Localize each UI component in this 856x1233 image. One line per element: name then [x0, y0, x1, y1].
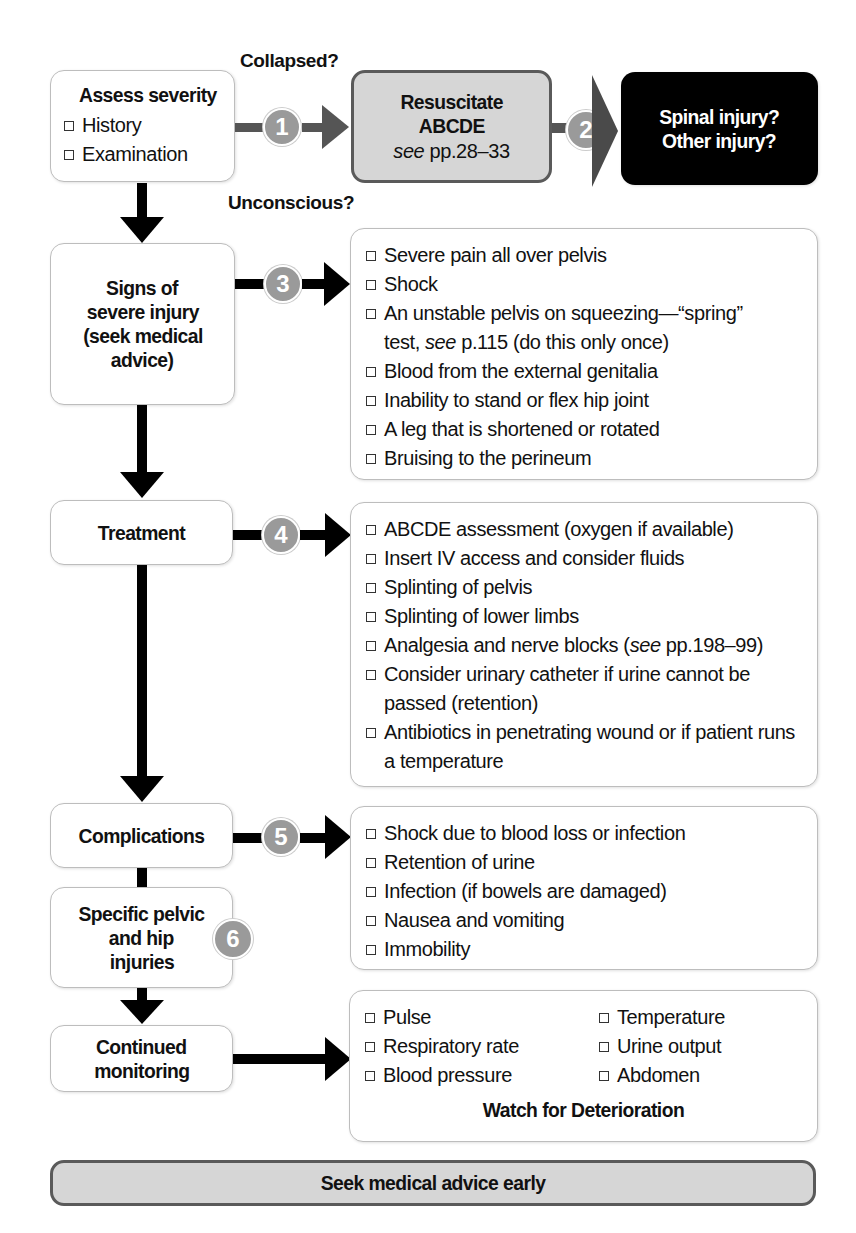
arrow-right-icon: [322, 105, 349, 149]
complications-item: Retention of urine: [363, 848, 805, 877]
arrow-right-icon: [325, 815, 351, 859]
connector-4-right: [300, 530, 326, 540]
checkbox-icon: [366, 454, 376, 464]
checkbox-icon: [366, 945, 376, 955]
resuscitate-box[interactable]: Resuscitate ABCDE see pp.28–33: [351, 70, 552, 183]
seek-medical-advice-label: Seek medical advice early: [321, 1171, 546, 1195]
checkbox-icon: [365, 1013, 375, 1023]
resuscitate-abcde: ABCDE: [419, 114, 485, 138]
resuscitate-title: Resuscitate: [400, 90, 502, 114]
specific-title-line: injuries: [109, 950, 173, 974]
checkbox-icon: [599, 1042, 609, 1052]
monitoring-item: Respiratory rate: [362, 1032, 596, 1061]
continued-monitoring-box[interactable]: Continued monitoring: [50, 1025, 233, 1092]
step-3-badge: 3: [264, 265, 302, 303]
checkbox-icon: [366, 670, 376, 680]
connector-5-right: [300, 833, 326, 843]
signs-item: Bruising to the perineum: [363, 444, 805, 473]
other-injury-label: Other injury?: [662, 129, 776, 153]
monitoring-right-column: Temperature Urine output Abdomen: [596, 1003, 725, 1090]
treatment-item: Splinting of lower limbs: [363, 602, 805, 631]
checkbox-icon: [366, 396, 376, 406]
step-4-badge: 4: [262, 516, 300, 554]
arrow-right-icon: [325, 1037, 351, 1081]
connector-vertical: [137, 868, 147, 888]
connector-1-right: [302, 123, 324, 132]
assess-item-history: History: [61, 111, 141, 140]
checkbox-icon: [365, 1042, 375, 1052]
treatment-list-box: ABCDE assessment (oxygen if available) I…: [350, 502, 818, 787]
signs-severe-injury-box[interactable]: Signs of severe injury (seek medical adv…: [50, 243, 235, 405]
arrow-right-icon: [325, 513, 351, 557]
complications-item: Nausea and vomiting: [363, 906, 805, 935]
monitoring-list-box: Pulse Respiratory rate Blood pressure Te…: [349, 990, 818, 1142]
chevron-right-icon: [592, 75, 618, 187]
signs-item: Inability to stand or flex hip joint: [363, 386, 805, 415]
signs-title-line: severe injury: [86, 300, 198, 324]
connector-vertical: [137, 183, 147, 219]
treatment-item: Splinting of pelvis: [363, 573, 805, 602]
connector-vertical: [137, 565, 147, 777]
checkbox-icon: [366, 554, 376, 564]
checkbox-icon: [366, 251, 376, 261]
seek-medical-advice-bar[interactable]: Seek medical advice early: [50, 1160, 816, 1206]
assess-item-examination: Examination: [61, 140, 188, 169]
arrow-down-icon: [120, 1000, 164, 1024]
step-5-badge: 5: [262, 818, 300, 856]
checkbox-icon: [366, 583, 376, 593]
specific-title-line: and hip: [109, 926, 174, 950]
resuscitate-page-ref[interactable]: see pp.28–33: [393, 138, 509, 164]
assess-severity-box[interactable]: Assess severity History Examination: [50, 70, 235, 182]
monitoring-item: Urine output: [596, 1032, 725, 1061]
treatment-box[interactable]: Treatment: [50, 500, 233, 565]
complications-box[interactable]: Complications: [50, 803, 233, 868]
monitoring-title-line: Continued: [96, 1035, 187, 1059]
checkbox-icon: [64, 121, 74, 131]
checkbox-icon: [599, 1071, 609, 1081]
checkbox-icon: [365, 1071, 375, 1081]
signs-item-spring-test: An unstable pelvis on squeezing—“spring”…: [363, 299, 805, 357]
checkbox-icon: [366, 829, 376, 839]
complications-item: Immobility: [363, 935, 805, 964]
complications-item: Infection (if bowels are damaged): [363, 877, 805, 906]
complications-list-box: Shock due to blood loss or infection Ret…: [350, 806, 818, 970]
monitoring-item: Pulse: [362, 1003, 596, 1032]
arrow-down-icon: [120, 472, 164, 498]
spinal-injury-label: Spinal injury?: [659, 105, 779, 129]
monitoring-item: Temperature: [596, 1003, 725, 1032]
connector-5-left: [233, 833, 263, 843]
checkbox-icon: [366, 858, 376, 868]
connector-3-right: [302, 279, 326, 289]
signs-item: Severe pain all over pelvis: [363, 241, 805, 270]
monitoring-item: Abdomen: [596, 1061, 725, 1090]
unconscious-label: Unconscious?: [228, 192, 354, 214]
checkbox-icon: [366, 525, 376, 535]
checkbox-icon: [366, 309, 376, 319]
treatment-title: Treatment: [98, 521, 185, 545]
connector-vertical: [137, 405, 147, 473]
checkbox-icon: [366, 612, 376, 622]
signs-item: A leg that is shortened or rotated: [363, 415, 805, 444]
spinal-other-injury-box[interactable]: Spinal injury? Other injury?: [621, 72, 818, 185]
connector-monitoring: [233, 1054, 327, 1064]
checkbox-icon: [366, 887, 376, 897]
monitoring-title-line: monitoring: [94, 1059, 189, 1083]
checkbox-icon: [366, 280, 376, 290]
checkbox-icon: [366, 916, 376, 926]
treatment-item-analgesia: Analgesia and nerve blocks (see pp.198–9…: [363, 631, 805, 660]
monitoring-item: Blood pressure: [362, 1061, 596, 1090]
arrow-down-icon: [120, 217, 164, 243]
specific-pelvic-hip-injuries-box[interactable]: Specific pelvic and hip injuries: [50, 887, 233, 988]
checkbox-icon: [599, 1013, 609, 1023]
checkbox-icon: [64, 150, 74, 160]
monitoring-left-column: Pulse Respiratory rate Blood pressure: [362, 1003, 596, 1090]
complications-item: Shock due to blood loss or infection: [363, 819, 805, 848]
treatment-item: Antibiotics in penetrating wound or if p…: [363, 718, 805, 776]
signs-title-line: (seek medical: [83, 324, 203, 348]
checkbox-icon: [366, 728, 376, 738]
signs-title-line: advice): [111, 348, 174, 372]
step-6-badge: 6: [213, 919, 253, 959]
signs-item: Shock: [363, 270, 805, 299]
signs-title-line: Signs of: [107, 276, 179, 300]
signs-item: Blood from the external genitalia: [363, 357, 805, 386]
